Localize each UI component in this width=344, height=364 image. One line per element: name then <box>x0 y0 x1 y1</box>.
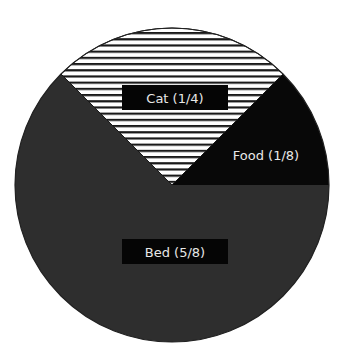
label-food: Food (1/8) <box>233 148 299 163</box>
label-bed-text: Bed (5/8) <box>145 245 205 260</box>
label-cat: Cat (1/4) <box>122 85 228 110</box>
label-cat-text: Cat (1/4) <box>146 91 203 106</box>
pie-chart: Cat (1/4) Food (1/8) Bed (5/8) <box>0 0 344 364</box>
label-food-text: Food (1/8) <box>233 148 299 163</box>
label-bed: Bed (5/8) <box>122 239 228 264</box>
